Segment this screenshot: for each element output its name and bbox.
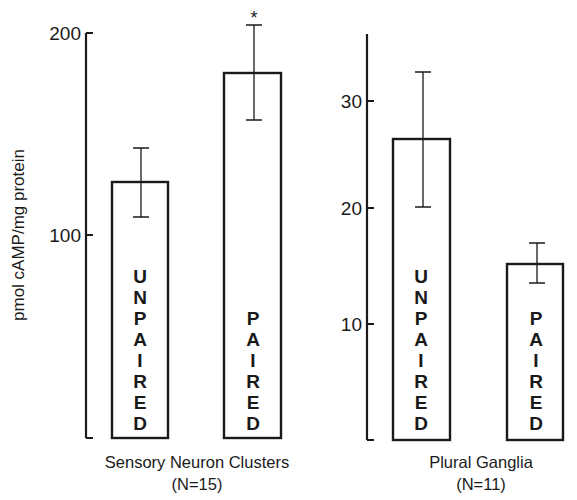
svg-text:R: R (133, 371, 147, 392)
svg-text:A: A (414, 329, 428, 350)
bar-unpaired-sensory: U N P A I R E D (112, 148, 168, 438)
svg-text:E: E (530, 392, 543, 413)
svg-text:D: D (529, 413, 543, 434)
svg-text:U: U (133, 266, 147, 287)
svg-text:R: R (529, 371, 543, 392)
right-n-label: (N=11) (456, 475, 506, 493)
svg-text:D: D (414, 413, 428, 434)
bar-unpaired-plural: U N P A I R E D (393, 72, 450, 440)
bar-label-paired: P A I R E D (529, 308, 543, 434)
svg-text:E: E (415, 392, 428, 413)
y-axis-label: pmol cAMP/mg protein (9, 149, 28, 321)
right-tick-20: 20 (341, 198, 362, 219)
left-x-label: Sensory Neuron Clusters (105, 453, 289, 471)
svg-text:U: U (414, 266, 428, 287)
svg-text:E: E (247, 392, 260, 413)
left-n-label: (N=15) (172, 475, 223, 493)
svg-text:D: D (246, 413, 260, 434)
svg-text:P: P (415, 308, 428, 329)
significance-asterisk: * (250, 8, 257, 28)
svg-text:I: I (137, 350, 142, 371)
svg-text:N: N (133, 287, 147, 308)
svg-text:E: E (134, 392, 147, 413)
svg-text:P: P (134, 308, 147, 329)
svg-text:A: A (246, 329, 260, 350)
svg-text:I: I (250, 350, 255, 371)
svg-text:A: A (133, 329, 147, 350)
right-tick-10: 10 (341, 314, 362, 335)
svg-text:A: A (529, 329, 543, 350)
figure: pmol cAMP/mg protein 200 100 U N P A I R… (0, 0, 577, 500)
svg-text:P: P (530, 308, 543, 329)
panel-plural-ganglia: 30 20 10 U N P A I R E D (341, 34, 563, 493)
bar-paired-plural: P A I R E D (507, 243, 563, 440)
left-tick-100: 100 (49, 225, 81, 246)
left-tick-200: 200 (49, 23, 81, 44)
bar-paired-sensory: * P A I R E D (224, 8, 281, 438)
svg-text:I: I (418, 350, 423, 371)
panel-sensory-neuron-clusters: 200 100 U N P A I R E D * (49, 8, 289, 493)
svg-text:R: R (414, 371, 428, 392)
svg-text:R: R (246, 371, 260, 392)
svg-text:P: P (247, 308, 260, 329)
right-tick-30: 30 (341, 91, 362, 112)
svg-text:I: I (533, 350, 538, 371)
svg-text:D: D (133, 413, 147, 434)
right-x-label: Plural Ganglia (429, 453, 533, 471)
bar-label-paired: P A I R E D (246, 308, 260, 434)
svg-text:N: N (414, 287, 428, 308)
